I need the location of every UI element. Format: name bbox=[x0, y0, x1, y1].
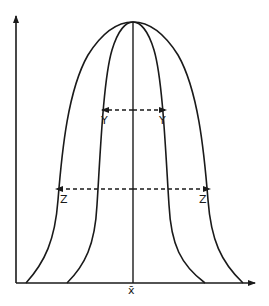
wide-distribution-curve bbox=[26, 22, 243, 283]
label-y-right: Y bbox=[159, 115, 166, 126]
x-axis-mean-label: x̄ bbox=[128, 285, 135, 296]
label-z-left: Z bbox=[60, 194, 68, 205]
label-y-left: Y bbox=[101, 115, 108, 126]
diagram-canvas bbox=[0, 0, 269, 306]
narrow-distribution-curve bbox=[67, 22, 205, 283]
label-z-right: Z bbox=[199, 194, 207, 205]
